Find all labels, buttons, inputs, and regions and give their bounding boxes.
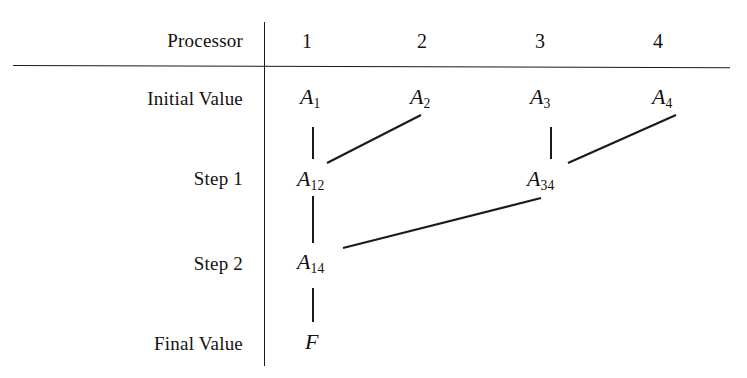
row-label-final-value: Final Value <box>154 334 243 353</box>
node-a1: A1 <box>300 86 321 110</box>
node-a1-subscript: 1 <box>313 96 320 111</box>
node-a3: A3 <box>530 86 551 110</box>
node-a2: A2 <box>410 86 431 110</box>
column-separator-rule <box>264 22 265 366</box>
column-header-4: 4 <box>638 31 678 51</box>
column-header-3: 3 <box>520 31 560 51</box>
column-header-2: 2 <box>402 31 442 51</box>
column-header-1: 1 <box>287 31 327 51</box>
node-a34-base: A <box>527 166 540 191</box>
row-label-step-1: Step 1 <box>194 169 243 188</box>
node-a4-subscript: 4 <box>665 96 672 111</box>
node-a12-subscript: 12 <box>310 178 324 193</box>
node-a14-base: A <box>297 249 310 274</box>
node-f-base: F <box>305 329 318 354</box>
node-a4-base: A <box>652 84 665 109</box>
connector-a4-to-a34 <box>568 115 676 163</box>
node-a4: A4 <box>652 86 673 110</box>
node-a2-base: A <box>410 84 423 109</box>
node-a34-subscript: 34 <box>540 178 554 193</box>
node-a14: A14 <box>297 251 325 275</box>
node-a3-base: A <box>530 84 543 109</box>
node-a2-subscript: 2 <box>423 96 430 111</box>
connector-a2-to-a12 <box>327 115 421 163</box>
reduction-tree-figure: Processor 1 2 3 4 Initial Value Step 1 S… <box>0 0 747 378</box>
row-label-step-2: Step 2 <box>194 254 243 273</box>
node-a1-base: A <box>300 84 313 109</box>
header-separator-rule <box>13 65 730 68</box>
node-a12: A12 <box>297 168 325 192</box>
node-f: F <box>305 331 318 355</box>
connector-a34-to-a14 <box>343 198 541 248</box>
row-label-initial-value: Initial Value <box>147 89 243 108</box>
node-a14-subscript: 14 <box>310 261 324 276</box>
node-a34: A34 <box>527 168 555 192</box>
node-a12-base: A <box>297 166 310 191</box>
processor-header-label: Processor <box>167 31 243 50</box>
node-a3-subscript: 3 <box>543 96 550 111</box>
connector-layer <box>0 0 747 378</box>
